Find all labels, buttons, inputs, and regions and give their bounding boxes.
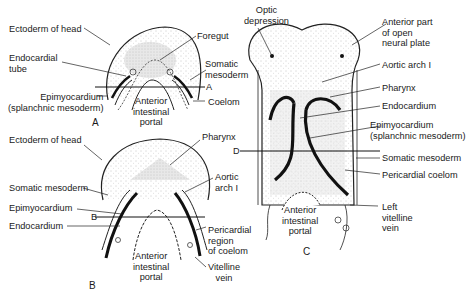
- label-a-coelom: Coelom: [208, 97, 240, 108]
- label-c-anterior-neural-plate: Anterior part of open neural plate: [382, 17, 433, 49]
- label-a-ectoderm-of-head: Ectoderm of head: [9, 24, 82, 35]
- panel-label-c: C: [303, 246, 310, 257]
- label-b-epimyocardium: Epimyocardium: [9, 203, 72, 214]
- label-a-somatic-mesoderm: Somatic mesoderm: [205, 59, 248, 80]
- label-b-section-line: B: [91, 212, 97, 223]
- label-a-foregut: Foregut: [197, 31, 229, 42]
- label-c-aortic-arch: Aortic arch I: [382, 60, 431, 71]
- label-a-endocardial-tube: Endocardial tube: [9, 53, 58, 74]
- label-b-aortic-arch: Aortic arch I: [215, 172, 239, 193]
- label-c-endocardium: Endocardium: [382, 101, 436, 112]
- panel-label-a: A: [92, 117, 99, 128]
- label-b-somatic-mesoderm: Somatic mesoderm: [9, 183, 88, 194]
- label-b-pericardial-region: Pericardial region of coelom: [208, 225, 251, 257]
- label-b-pharynx: Pharynx: [202, 132, 236, 143]
- label-a-anterior-intestinal-portal: Anterior intestinal portal: [133, 96, 169, 128]
- label-c-anterior-intestinal-portal: Anterior intestinal portal: [282, 205, 318, 237]
- label-c-epimyocardium: Epimyocardium (splanchnic mesoderm): [370, 120, 465, 141]
- label-a-section-line: A: [206, 82, 212, 93]
- label-c-left-vitelline-vein: Left vitelline vein: [382, 202, 413, 234]
- label-b-vitelline-vein: Vitelline vein: [208, 262, 240, 283]
- label-a-epimyocardium: Epimyocardium (splanchnic mesoderm): [8, 92, 103, 113]
- label-b-endocardium: Endocardium: [9, 221, 63, 232]
- label-b-ectoderm-of-head: Ectoderm of head: [9, 135, 82, 146]
- label-b-anterior-intestinal-portal: Anterior intestinal portal: [133, 251, 169, 283]
- label-c-somatic-mesoderm: Somatic mesoderm: [382, 153, 461, 164]
- label-c-pharynx: Pharynx: [382, 83, 416, 94]
- label-c-section-line: D: [233, 146, 240, 157]
- label-c-pericardial-coelom: Pericardial coelom: [382, 170, 458, 181]
- panel-label-b: B: [89, 280, 96, 291]
- label-c-optic-depression: Optic depression: [244, 5, 289, 26]
- panel-b-drawing: [95, 139, 210, 260]
